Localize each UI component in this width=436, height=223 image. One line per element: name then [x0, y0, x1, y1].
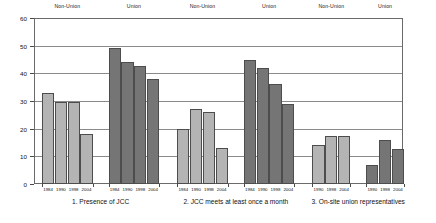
- bar: [325, 136, 337, 184]
- x-tick-label: 2004: [82, 187, 92, 192]
- bar: [109, 48, 121, 184]
- y-tick-label: 30: [20, 98, 27, 105]
- x-tick-mark: [159, 184, 160, 187]
- x-tick-label: 1998: [69, 187, 79, 192]
- x-tick-mark: [244, 184, 245, 187]
- bar: [55, 102, 67, 184]
- x-tick-label: 2004: [283, 187, 293, 192]
- x-tick-mark: [177, 184, 178, 187]
- bar: [147, 79, 159, 184]
- x-tick-label: 2004: [148, 187, 158, 192]
- section-caption: 3. On-site union representatives: [311, 198, 404, 205]
- bar: [366, 165, 378, 184]
- bar: [244, 60, 256, 185]
- bar: [121, 62, 133, 184]
- y-tick-label: 20: [20, 125, 27, 132]
- x-tick-mark: [404, 184, 405, 187]
- x-tick-label: 1984: [178, 187, 188, 192]
- x-tick-label: 2004: [217, 187, 227, 192]
- x-tick-label: 2004: [393, 187, 403, 192]
- bars-layer: [34, 18, 403, 184]
- bar: [269, 84, 281, 184]
- bar: [282, 104, 294, 184]
- bar: [42, 93, 54, 184]
- group-header: Union: [95, 3, 174, 9]
- x-tick-mark: [312, 184, 313, 187]
- section-caption: 2. JCC meets at least once a month: [183, 198, 288, 205]
- x-tick-label: 1998: [326, 187, 336, 192]
- bar-chart: Non-UnionUnionNon-UnionUnionNon-UnionUni…: [0, 0, 436, 223]
- group-header: Union: [230, 3, 309, 9]
- bar: [312, 145, 324, 184]
- y-tick-label: 60: [20, 15, 27, 22]
- section-caption-row: 1. Presence of JCC2. JCC meets at least …: [0, 198, 436, 212]
- x-axis: 1984199019982004198419901998200419841990…: [34, 184, 403, 194]
- y-tick-label: 40: [20, 70, 27, 77]
- x-tick-label: 1990: [123, 187, 133, 192]
- x-tick-mark: [228, 184, 229, 187]
- bar: [257, 68, 269, 184]
- y-axis: 0102030405060: [0, 18, 34, 185]
- x-tick-label: 1998: [380, 187, 390, 192]
- x-tick-label: 1990: [191, 187, 201, 192]
- x-tick-label: 1998: [271, 187, 281, 192]
- x-tick-label: 1984: [43, 187, 53, 192]
- x-tick-mark: [42, 184, 43, 187]
- x-tick-label: 1990: [367, 187, 377, 192]
- bar: [203, 112, 215, 184]
- x-tick-label: 1998: [204, 187, 214, 192]
- x-tick-mark: [93, 184, 94, 187]
- x-tick-label: 1984: [110, 187, 120, 192]
- group-header-row: Non-UnionUnionNon-UnionUnionNon-UnionUni…: [0, 0, 436, 16]
- x-tick-mark: [350, 184, 351, 187]
- group-header: Union: [352, 3, 418, 9]
- bar: [80, 134, 92, 184]
- x-tick-mark: [366, 184, 367, 187]
- bar: [392, 149, 404, 184]
- y-tick-label: 10: [20, 153, 27, 160]
- bar: [338, 136, 350, 184]
- bar: [134, 66, 146, 184]
- y-tick-label: 50: [20, 42, 27, 49]
- bar: [177, 129, 189, 184]
- x-tick-label: 2004: [339, 187, 349, 192]
- x-tick-label: 1990: [56, 187, 66, 192]
- bar: [190, 109, 202, 184]
- x-tick-label: 1990: [314, 187, 324, 192]
- bar: [379, 140, 391, 184]
- x-tick-label: 1984: [245, 187, 255, 192]
- x-tick-mark: [109, 184, 110, 187]
- bar: [216, 148, 228, 184]
- bar: [68, 102, 80, 184]
- x-tick-mark: [294, 184, 295, 187]
- y-tick-label: 0: [24, 181, 27, 188]
- section-caption: 1. Presence of JCC: [72, 198, 129, 205]
- x-tick-label: 1990: [258, 187, 268, 192]
- x-tick-label: 1998: [135, 187, 145, 192]
